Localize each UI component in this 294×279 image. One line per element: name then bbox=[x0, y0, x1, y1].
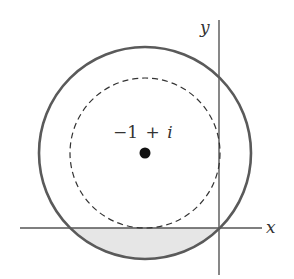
complex-plane-diagram: −1 + i y x bbox=[0, 0, 294, 279]
y-axis-label: y bbox=[199, 17, 210, 37]
x-axis-label: x bbox=[266, 217, 276, 237]
center-point bbox=[140, 148, 151, 159]
center-label: −1 + i bbox=[113, 122, 173, 142]
